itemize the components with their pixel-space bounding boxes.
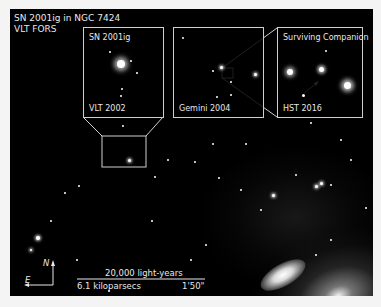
inset-vlt-2002: SN 2001ig VLT 2002 [83,27,164,118]
scale-bar-lightyears: 20,000 light-years [105,268,183,278]
inset-hst-2016: Surviving Companion HST 2016 [277,27,363,118]
inset-bottom-label: Gemini 2004 [179,104,230,114]
astronomy-image: SN 2001ig in NGC 7424 VLT FORS SN 2001ig… [10,9,373,296]
inset-top-label: SN 2001ig [89,33,130,43]
scale-bar-kiloparsecs: 6.1 kiloparsecs [77,281,141,291]
scale-bar-angular: 1'50" [182,281,204,291]
compass-east-label: E [25,275,30,285]
inset-bottom-label: VLT 2002 [89,104,126,114]
inset-bottom-label: HST 2016 [283,104,322,114]
compass-north-label: N [43,258,49,268]
inset-gemini-2004: Gemini 2004 [173,27,264,118]
inset-top-label: Surviving Companion [283,33,369,43]
